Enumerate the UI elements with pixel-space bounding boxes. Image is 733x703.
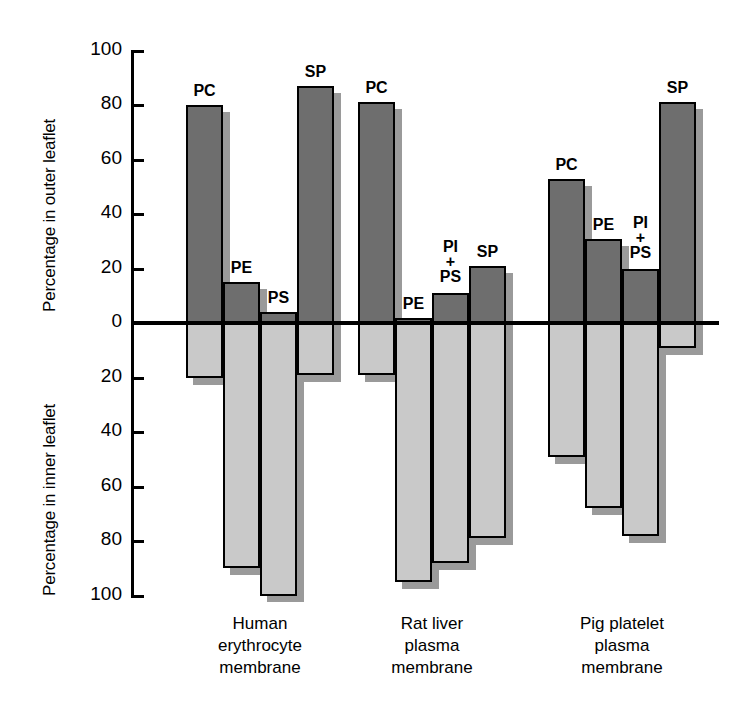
bar-inner-leaflet[interactable] bbox=[432, 323, 469, 563]
bar-inner-leaflet[interactable] bbox=[469, 323, 506, 538]
bar-outer-leaflet[interactable] bbox=[358, 102, 395, 323]
bar-outer-leaflet[interactable] bbox=[186, 105, 223, 323]
bar-label: SP bbox=[287, 64, 344, 79]
bar-outer-leaflet[interactable] bbox=[548, 179, 585, 323]
bar-label: PC bbox=[348, 80, 405, 95]
bar-outer-leaflet[interactable] bbox=[622, 269, 659, 324]
zero-baseline bbox=[131, 321, 719, 325]
bar-inner-leaflet[interactable] bbox=[659, 323, 696, 348]
bar-inner-leaflet[interactable] bbox=[260, 323, 297, 596]
bar-inner-leaflet[interactable] bbox=[585, 323, 622, 508]
plot-area: PCPEPSSPPCPEPI + PSSPPCPEPI + PSSP bbox=[0, 0, 733, 703]
bar-outer-leaflet[interactable] bbox=[297, 86, 334, 323]
chart-figure: Percentage in outer leaflet Percentage i… bbox=[0, 0, 733, 703]
bar-label: SP bbox=[459, 244, 516, 259]
group-caption: Rat liver plasma membrane bbox=[337, 613, 527, 679]
bar-outer-leaflet[interactable] bbox=[659, 102, 696, 323]
bar-inner-leaflet[interactable] bbox=[395, 323, 432, 582]
bar-inner-leaflet[interactable] bbox=[358, 323, 395, 375]
bar-inner-leaflet[interactable] bbox=[622, 323, 659, 536]
bar-outer-leaflet[interactable] bbox=[432, 293, 469, 323]
bar-inner-leaflet[interactable] bbox=[186, 323, 223, 378]
bar-label: PC bbox=[538, 157, 595, 172]
bar-inner-leaflet[interactable] bbox=[297, 323, 334, 375]
bar-label: PC bbox=[176, 83, 233, 98]
bar-inner-leaflet[interactable] bbox=[548, 323, 585, 457]
bar-outer-leaflet[interactable] bbox=[469, 266, 506, 323]
group-caption: Pig platelet plasma membrane bbox=[527, 613, 717, 679]
bar-label: PE bbox=[213, 260, 270, 275]
bar-inner-leaflet[interactable] bbox=[223, 323, 260, 568]
bar-label: SP bbox=[649, 80, 706, 95]
group-caption: Human erythrocyte membrane bbox=[165, 613, 355, 679]
